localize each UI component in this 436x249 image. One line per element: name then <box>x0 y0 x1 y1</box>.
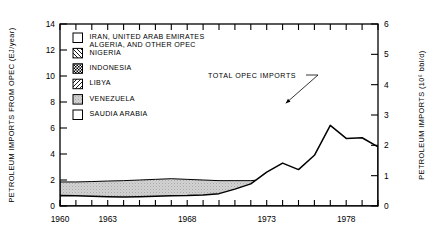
legend-label: NIGERIA <box>90 49 122 57</box>
x-tick-label: 1960 <box>51 214 70 224</box>
left-tick-label: 12 <box>46 45 56 55</box>
canvas-background <box>0 0 436 249</box>
x-tick-label: 1978 <box>337 214 356 224</box>
left-tick-label: 10 <box>46 71 56 81</box>
legend-swatch-white <box>73 110 83 120</box>
right-tick-label: 4 <box>384 80 389 90</box>
legend-label: SAUDIA ARABIA <box>90 110 148 118</box>
legend-swatch-checker <box>73 64 83 74</box>
right-tick-label: 2 <box>384 140 389 150</box>
left-tick-label: 14 <box>46 19 56 29</box>
left-tick-label: 4 <box>50 149 55 159</box>
legend-label: VENEZUELA <box>90 95 135 103</box>
legend-swatch-stipple-gray <box>73 95 83 105</box>
x-tick-label: 1963 <box>98 214 117 224</box>
opec-petroleum-imports-stacked-area-chart: 02468101214 0123456 19601963196819731978… <box>0 0 436 249</box>
right-tick-label: 0 <box>384 201 389 211</box>
legend-label: IRAN, UNITED ARAB EMIRATES <box>90 33 205 41</box>
right-tick-label: 6 <box>384 19 389 29</box>
x-tick-label: 1968 <box>178 214 197 224</box>
right-tick-label: 3 <box>384 110 389 120</box>
legend-label: LIBYA <box>90 79 111 87</box>
left-tick-label: 2 <box>50 175 55 185</box>
legend-item: INDONESIA <box>73 64 132 74</box>
legend-swatch-hatch-back <box>73 48 83 58</box>
legend-item: NIGERIA <box>73 48 121 58</box>
right-tick-label: 5 <box>384 49 389 59</box>
legend-item: IRAN, UNITED ARAB EMIRATESALGERIA, AND O… <box>73 33 205 49</box>
left-tick-label: 8 <box>50 97 55 107</box>
x-tick-label: 1973 <box>257 214 276 224</box>
right-tick-label: 1 <box>384 171 389 181</box>
legend-item: VENEZUELA <box>73 95 135 105</box>
right-axis-title: PETROLEUM IMPORTS (10⁶ bbl/d) <box>417 50 426 179</box>
annotation-label: TOTAL OPEC IMPORTS <box>208 72 296 80</box>
legend-label: INDONESIA <box>90 64 132 72</box>
legend-swatch-white <box>73 33 83 43</box>
legend-item: LIBYA <box>73 79 111 89</box>
left-tick-label: 0 <box>50 201 55 211</box>
bottom-axis-ticks <box>60 200 378 206</box>
left-axis-title: PETROLEUM IMPORTS FROM OPEC (EJ/year) <box>7 27 16 202</box>
legend-swatch-hatch-forward <box>73 79 83 89</box>
top-axis-ticks <box>60 24 378 30</box>
chart-root: 02468101214 0123456 19601963196819731978… <box>0 0 436 249</box>
left-tick-label: 6 <box>50 123 55 133</box>
